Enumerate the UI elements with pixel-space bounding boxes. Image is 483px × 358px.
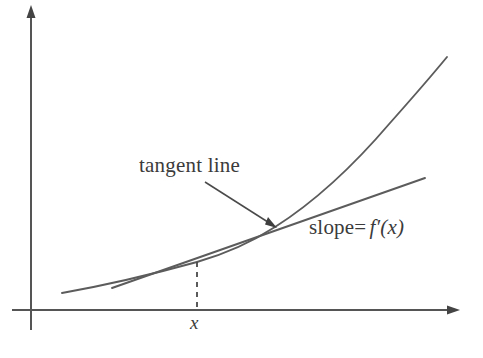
figure-canvas [0, 0, 483, 358]
slope-label: slope=f′(x) [309, 217, 404, 238]
function-curve [62, 57, 447, 293]
y-axis-arrowhead-icon [27, 5, 36, 18]
tangent-line-label: tangent line [139, 155, 240, 176]
slope-label-derivative-expression: f′(x) [366, 215, 404, 239]
derivative-tangent-figure: tangent line slope=f′(x) x [0, 0, 483, 358]
tangent-label-leader-line [205, 182, 271, 224]
tangent-label-arrowhead-icon [265, 217, 277, 228]
x-axis-point-label: x [190, 313, 198, 332]
slope-label-prefix: slope= [309, 215, 366, 239]
x-axis-arrowhead-icon [447, 306, 460, 315]
